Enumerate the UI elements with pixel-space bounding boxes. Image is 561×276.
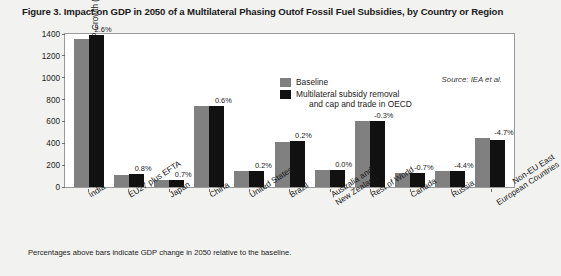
x-label-cell: Russia: [430, 189, 470, 259]
legend-item-policy: Multilateral subsidy removal and cap and…: [280, 89, 412, 110]
bar-group: 0.0%: [310, 34, 350, 187]
legend-label-policy: Multilateral subsidy removal and cap and…: [296, 89, 412, 110]
y-tick-label: 1200: [42, 51, 65, 60]
legend-label-baseline: Baseline: [296, 77, 328, 88]
bar-baseline: [74, 39, 89, 187]
bar-baseline: [475, 138, 490, 187]
bar-groups: 2.6%0.8%0.7%0.6%0.2%0.2%0.0%-0.3%-0.7%-4…: [65, 34, 514, 187]
x-label-cell: Non-EU EastEuropean Countries: [471, 189, 511, 259]
legend-item-baseline: Baseline: [280, 77, 412, 88]
bar-policy: [290, 141, 305, 187]
source-note: Source: IEA et al.: [442, 75, 502, 84]
bar-policy: [89, 35, 104, 187]
x-label-cell: Canada: [390, 189, 430, 259]
y-tick-label: 1400: [42, 30, 65, 39]
bar-group: -4.4%: [430, 34, 470, 187]
chart-legend: Baseline Multilateral subsidy removal an…: [280, 77, 412, 111]
legend-swatch-policy: [280, 90, 291, 99]
legend-label-policy-line1: Multilateral subsidy removal: [296, 89, 399, 99]
y-tick-label: 400: [46, 139, 65, 148]
bar-group: 2.6%: [69, 34, 109, 187]
x-label-cell: Rest of World: [350, 189, 390, 259]
bar-group: 0.2%: [269, 34, 309, 187]
legend-swatch-baseline: [280, 78, 291, 87]
y-tick-label: 600: [46, 117, 65, 126]
bar-group: -0.3%: [350, 34, 390, 187]
bar-baseline: [194, 106, 209, 187]
bar-baseline: [114, 175, 129, 187]
bar-value-label: -4.7%: [494, 128, 513, 137]
bar-baseline: [315, 170, 330, 187]
figure-footnote: Percentages above bars indicate GDP chan…: [28, 248, 291, 257]
bar-policy: [209, 106, 224, 187]
y-tick-label: 1000: [42, 73, 65, 82]
x-label-cell: Australia andNew Zealand: [310, 189, 350, 259]
bar-baseline: [435, 171, 450, 187]
legend-label-policy-line2: and cap and trade in OECD: [296, 99, 412, 110]
bar-group: 0.8%: [109, 34, 149, 187]
y-tick-label: 200: [46, 161, 65, 170]
bar-policy: [490, 140, 505, 187]
bar-group: 0.2%: [229, 34, 269, 187]
bar-group: 0.6%: [189, 34, 229, 187]
bar-group: -4.7%: [470, 34, 510, 187]
y-tick-label: 800: [46, 95, 65, 104]
bar-value-label: 2.6%: [95, 25, 112, 34]
bar-baseline: [234, 171, 249, 187]
